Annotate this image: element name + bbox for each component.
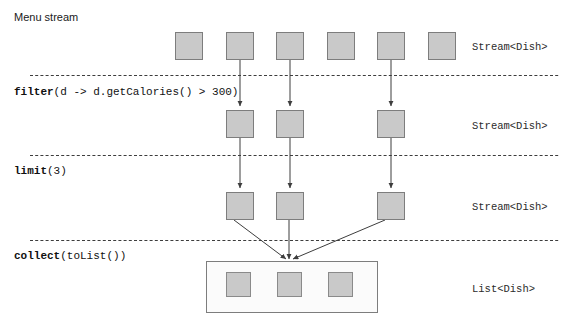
stream-element [276,192,304,220]
diagram-title: Menu stream [14,11,78,23]
stream-element [276,32,304,60]
arrow-limit-to-collect-right [293,220,385,259]
stream-pipeline-diagram: Menu stream filter(d -> d.getCalories() … [0,0,573,323]
stream-element [377,192,405,220]
type-label-source: Stream<Dish> [472,41,548,53]
list-element [277,272,302,297]
stream-element [377,32,405,60]
list-element [226,272,251,297]
operation-label-filter: filter(d -> d.getCalories() > 300) [14,86,238,98]
stream-element [327,32,355,60]
operation-name-collect: collect [14,250,60,262]
stream-element [428,32,456,60]
stream-element [276,110,304,138]
stream-element [226,192,254,220]
filter-stage-arrows [240,60,391,106]
stream-element [377,110,405,138]
type-label-filter: Stream<Dish> [472,120,548,132]
operation-arg-limit: (3) [47,165,67,177]
stream-element [175,32,203,60]
operation-arg-collect: (toList()) [60,250,126,262]
stream-element [226,32,254,60]
operation-label-limit: limit(3) [14,165,67,177]
type-label-limit: Stream<Dish> [472,201,548,213]
list-element [328,272,353,297]
operation-name-limit: limit [14,165,47,177]
stream-element [226,110,254,138]
operation-arg-filter: (d -> d.getCalories() > 300) [54,86,239,98]
operation-label-collect: collect(toList()) [14,250,126,262]
collect-stage-arrows [234,220,385,259]
operation-name-filter: filter [14,86,54,98]
type-label-collect: List<Dish> [472,283,535,295]
arrow-limit-to-collect-left [234,220,286,259]
limit-stage-arrows [240,138,391,188]
